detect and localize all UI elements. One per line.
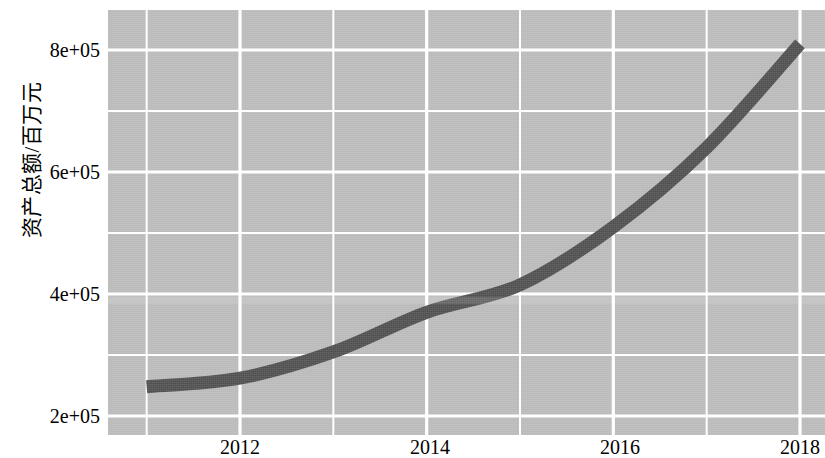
x-axis-tick-labels: 2012 2014 2016 2018	[0, 0, 825, 458]
x-tick-label-2012: 2012	[185, 436, 295, 458]
x-tick-label-2014: 2014	[375, 436, 485, 458]
x-tick-label-2016: 2016	[565, 436, 675, 458]
chart-figure: 资产总额/百万元 8e+05 6e+05 4e+05 2e+05 2012 20…	[0, 0, 825, 458]
x-tick-label-2018: 2018	[745, 436, 825, 458]
